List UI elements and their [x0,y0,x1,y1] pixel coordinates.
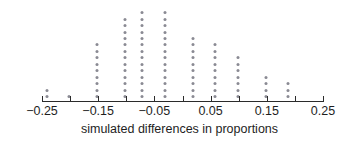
data-dot [96,82,99,85]
data-dot [163,18,166,21]
x-axis-minor-tick [70,96,71,101]
dot-stack [214,0,219,101]
data-dot [124,69,127,72]
data-dot [264,76,267,79]
data-dot [141,63,144,66]
data-dot [191,82,194,85]
data-dot [264,89,267,92]
x-axis-tick-label: −0.05 [139,104,171,118]
data-dot [45,89,48,92]
data-dot [141,82,144,85]
x-axis-title: simulated differences in proportions [0,122,359,136]
data-dot [191,63,194,66]
x-axis-tick-label: −0.15 [82,104,114,118]
data-dot [287,89,290,92]
data-dot [163,69,166,72]
data-dot [96,56,99,59]
data-dot [163,76,166,79]
data-dot [214,82,217,85]
x-axis-tick [211,96,212,102]
data-dot [141,56,144,59]
data-dot [236,76,239,79]
data-dot [191,76,194,79]
data-dot [124,56,127,59]
data-dot [163,95,166,98]
data-dot [163,37,166,40]
data-dot [214,43,217,46]
x-axis-minor-tick [239,96,240,101]
data-dot [124,82,127,85]
data-dot [96,76,99,79]
data-dot [236,69,239,72]
data-dot [141,95,144,98]
data-dot [163,63,166,66]
data-dot [163,43,166,46]
data-dot [96,43,99,46]
data-dot [124,50,127,53]
data-dot [141,24,144,27]
data-dot [287,82,290,85]
dot-stack [191,0,196,101]
data-dot [236,63,239,66]
x-axis-tick-label: 0.15 [255,104,279,118]
data-dot [141,11,144,14]
data-dot [163,56,166,59]
x-axis-tick [267,96,268,102]
data-dot [214,50,217,53]
data-dot [191,37,194,40]
data-dot [264,82,267,85]
data-dot [191,69,194,72]
data-dot [214,95,217,98]
data-dot [141,43,144,46]
data-dot [141,50,144,53]
data-dot [214,69,217,72]
x-axis-tick [154,96,155,102]
data-dot [96,69,99,72]
dot-stack [287,0,292,101]
data-dot [191,95,194,98]
data-dot [96,63,99,66]
data-dot [124,43,127,46]
x-axis-tick [323,96,324,102]
dotplot-chart: −0.25−0.15−0.050.050.150.25 simulated di… [0,0,359,143]
dot-stack [124,0,129,101]
dot-stack [96,0,101,101]
data-dot [124,63,127,66]
data-dot [124,31,127,34]
data-dot [163,50,166,53]
dot-stack [264,0,269,101]
data-dot [96,89,99,92]
data-dot [45,95,48,98]
data-dot [163,82,166,85]
data-dot [191,50,194,53]
data-dot [124,37,127,40]
data-dot [214,56,217,59]
data-dot [191,56,194,59]
data-dot [141,76,144,79]
data-dot [124,89,127,92]
data-dot [214,63,217,66]
data-dot [124,18,127,21]
data-dot [124,76,127,79]
data-dot [141,89,144,92]
data-dot [163,11,166,14]
data-dot [214,76,217,79]
data-dot [236,56,239,59]
data-dot [236,82,239,85]
data-dot [214,89,217,92]
data-dot [191,43,194,46]
dot-stack [236,0,241,101]
x-axis-minor-tick [295,96,296,101]
data-dot [287,95,290,98]
dot-stack [45,0,50,101]
data-dot [141,69,144,72]
dot-stack [68,0,73,101]
x-axis-tick [98,96,99,102]
x-axis-line [42,101,323,102]
plot-area [0,0,359,101]
dot-stack [163,0,168,101]
data-dot [141,31,144,34]
data-dot [163,31,166,34]
data-dot [236,89,239,92]
data-dot [163,24,166,27]
